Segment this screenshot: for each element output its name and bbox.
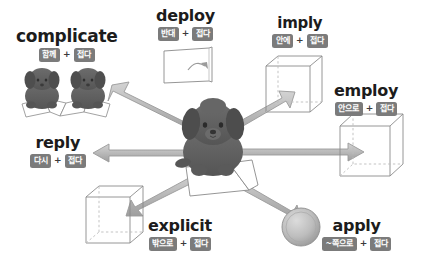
prefix-tag-apply: ~쪽으로 [322, 237, 357, 251]
headword-employ: employ [334, 83, 398, 99]
word-explicit: explicit 밖으로 + 접다 [148, 218, 212, 251]
plus-sign-apply: + [360, 239, 368, 248]
prefix-tag-complicate: 함께 [39, 48, 60, 62]
word-employ: employ 안으로 + 접다 [334, 83, 398, 116]
headword-explicit: explicit [148, 218, 212, 234]
word-deploy: deploy 반대 + 접다 [156, 8, 215, 41]
prefix-tag-imply: 안에 [272, 34, 293, 48]
root-tag-reply: 접다 [65, 154, 86, 168]
root-tag-complicate: 접다 [74, 48, 95, 62]
root-tag-deploy: 접다 [192, 27, 213, 41]
plus-sign-imply: + [296, 36, 304, 45]
diagram-canvas: complicate 함께 + 접다 deploy 반대 + 접다 imply … [0, 0, 425, 276]
plus-sign-explicit: + [180, 239, 188, 248]
headword-deploy: deploy [156, 8, 215, 24]
tagrow-employ: 안으로 + 접다 [335, 102, 398, 116]
prefix-tag-deploy: 반대 [158, 27, 179, 41]
dog-left [25, 68, 60, 109]
word-complicate: complicate 함께 + 접다 [16, 28, 118, 62]
headword-reply: reply [35, 135, 80, 151]
icon-deploy [164, 47, 212, 83]
prefix-tag-reply: 다시 [30, 154, 51, 168]
prefix-tag-employ: 안으로 [335, 102, 363, 116]
root-tag-employ: 접다 [376, 102, 397, 116]
headword-complicate: complicate [16, 28, 118, 45]
tagrow-reply: 다시 + 접다 [30, 154, 86, 168]
tagrow-apply: ~쪽으로 + 접다 [322, 237, 391, 251]
tagrow-complicate: 함께 + 접다 [39, 48, 95, 62]
center-dog [174, 98, 246, 176]
word-imply: imply 안에 + 접다 [272, 16, 328, 48]
root-tag-apply: 접다 [370, 237, 391, 251]
plus-sign-complicate: + [63, 50, 71, 59]
prefix-tag-explicit: 밖으로 [149, 237, 177, 251]
tagrow-imply: 안에 + 접다 [272, 34, 328, 48]
word-reply: reply 다시 + 접다 [30, 135, 86, 168]
plus-sign-deploy: + [182, 29, 190, 38]
plus-sign-employ: + [366, 104, 374, 113]
icon-apply [282, 208, 320, 246]
tagrow-deploy: 반대 + 접다 [158, 27, 214, 41]
word-apply: apply ~쪽으로 + 접다 [322, 218, 391, 251]
dog-right [71, 68, 106, 109]
plus-sign-reply: + [54, 156, 62, 165]
tagrow-explicit: 밖으로 + 접다 [149, 237, 212, 251]
headword-apply: apply [333, 218, 381, 234]
root-tag-explicit: 접다 [190, 237, 211, 251]
icon-complicate [22, 68, 110, 117]
root-tag-imply: 접다 [307, 34, 328, 48]
headword-imply: imply [277, 16, 322, 31]
